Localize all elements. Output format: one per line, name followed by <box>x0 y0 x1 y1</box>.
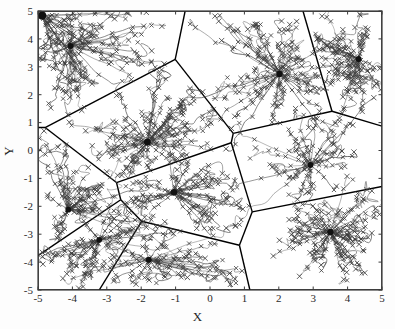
y-tick-label: 3 <box>28 61 34 73</box>
y-tick-label: 4 <box>28 33 34 45</box>
x-tick-label: -4 <box>68 292 78 304</box>
x-stroke-b <box>120 5 124 9</box>
cluster-center-marker <box>68 43 74 49</box>
cluster-center-marker <box>65 207 71 213</box>
cluster-center-marker <box>327 229 333 235</box>
y-tick-label: 2 <box>28 89 34 101</box>
y-tick-label: -4 <box>24 256 34 268</box>
x-tick-label: 0 <box>207 292 213 304</box>
y-tick-label: 1 <box>28 116 34 128</box>
x-tick-label: 4 <box>345 292 351 304</box>
x-tick-label: 5 <box>379 292 385 304</box>
cluster-center-marker <box>276 71 282 77</box>
x-tick-label: 2 <box>276 292 282 304</box>
plot-canvas: -5-4-3-2-1012345-5-4-3-2-1012345 <box>0 0 395 329</box>
cluster-center-marker <box>38 11 46 19</box>
y-tick-label: -1 <box>24 172 33 184</box>
x-tick-label: -3 <box>102 292 112 304</box>
x-tick-label: -2 <box>137 292 146 304</box>
cluster-center-marker <box>356 56 362 62</box>
x-tick-label: 3 <box>310 292 316 304</box>
cluster-center-marker <box>96 237 102 243</box>
y-tick-label: -3 <box>24 228 34 240</box>
y-tick-label: -5 <box>24 284 34 296</box>
y-axis-label: Y <box>1 136 17 166</box>
y-tick-label: 5 <box>28 5 34 17</box>
x-axis-label: X <box>0 309 395 325</box>
y-tick-label: 0 <box>28 144 34 156</box>
cluster-center-marker <box>307 162 313 168</box>
x-tick-label: -1 <box>171 292 180 304</box>
data-point-x <box>120 5 124 9</box>
cluster-center-marker <box>144 139 151 146</box>
x-stroke-b <box>34 59 38 63</box>
x-tick-label: -5 <box>33 292 43 304</box>
voronoi-trajectory-figure: -5-4-3-2-1012345-5-4-3-2-1012345 <box>0 0 395 329</box>
x-tick-label: 1 <box>242 292 248 304</box>
cluster-center-marker <box>170 189 177 196</box>
cluster-center-marker <box>146 257 152 263</box>
data-point-x <box>34 59 38 63</box>
x-stroke-a <box>120 5 124 9</box>
x-stroke-a <box>34 59 38 63</box>
y-tick-label: -2 <box>24 200 33 212</box>
